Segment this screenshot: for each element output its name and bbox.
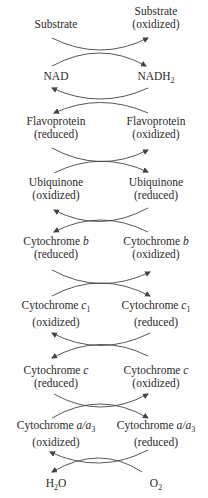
label-state: (oxidized): [104, 18, 208, 31]
label-italic: b: [183, 235, 189, 247]
arrow-cytochrome-a-oxidation: [50, 450, 148, 463]
label-text: Cytochrome c1: [104, 299, 208, 316]
label-cytochrome-a-oxidized-left: Cytochrome a/a3 (oxidized): [4, 419, 108, 449]
arrow-nad-reduction: [52, 53, 146, 66]
label-oxygen: O2: [104, 477, 208, 494]
arrow-cytochrome-b-oxidation: [52, 270, 150, 284]
label-italic: c: [183, 364, 188, 376]
label-state: (reduced): [104, 189, 208, 202]
arrow-flavoprotein-oxidation: [52, 148, 148, 162]
arrow-substrate-oxidation: [52, 38, 148, 50]
label-subscript: 2: [171, 76, 175, 85]
label-text: Substrate: [4, 18, 108, 31]
label-cytochrome-c1-oxidized-left: Cytochrome c1 (oxidized): [4, 299, 108, 329]
label-state: (oxidized): [4, 189, 108, 202]
label-text-main: Cytochrome: [117, 419, 177, 431]
label-state: (oxidized): [104, 377, 208, 390]
arrow-cytochrome-c-oxidation: [54, 394, 148, 407]
label-text-main: Cytochrome: [124, 364, 184, 376]
label-nad: NAD: [4, 70, 108, 83]
label-subscript: 3: [91, 425, 95, 434]
arrow-cytochrome-c1-reduction: [52, 283, 150, 296]
label-ubiquinone-reduced-right: Ubiquinone (reduced): [104, 176, 208, 202]
label-text: Cytochrome a/a3: [104, 419, 208, 436]
label-text: O2: [104, 477, 208, 494]
label-subscript: 1: [186, 305, 190, 314]
label-text-main: Cytochrome: [22, 299, 82, 311]
label-text: Ubiquinone: [4, 176, 108, 189]
label-flavoprotein-oxidized-right: Flavoprotein (oxidized): [104, 115, 208, 141]
label-text-main: O: [150, 477, 158, 489]
label-substrate: Substrate: [4, 18, 108, 31]
label-text-main: Cytochrome: [23, 235, 83, 247]
label-cytochrome-b-oxidized-right: Cytochrome b (oxidized): [104, 235, 208, 261]
label-state: (oxidized): [104, 248, 208, 261]
label-state: (oxidized): [4, 436, 108, 449]
label-text: Ubiquinone: [104, 176, 208, 189]
label-italic: a/a: [177, 419, 192, 431]
arrow-nadh2-oxidation: [52, 88, 148, 99]
label-state: (reduced): [104, 436, 208, 449]
label-text-main: NADH: [137, 70, 170, 82]
label-text-main: Cytochrome: [122, 299, 182, 311]
label-italic: a/a: [77, 419, 92, 431]
label-text: NADH2: [104, 70, 208, 87]
label-text-main: Cytochrome: [24, 364, 84, 376]
label-state: (oxidized): [4, 316, 108, 329]
label-state: (reduced): [4, 377, 108, 390]
label-text: Cytochrome b: [4, 235, 108, 248]
label-flavoprotein-reduced-left: Flavoprotein (reduced): [4, 115, 108, 141]
arrow-oxygen-reduction: [52, 458, 142, 472]
label-ubiquinone-oxidized-left: Ubiquinone (oxidized): [4, 176, 108, 202]
arrow-flavoprotein-reduction: [54, 103, 148, 114]
label-text: Flavoprotein: [4, 115, 108, 128]
label-text: Cytochrome c: [4, 364, 108, 377]
arrow-ubiquinone-reduction: [54, 161, 148, 173]
label-text-main: H: [46, 477, 54, 489]
label-subscript: 1: [86, 305, 90, 314]
label-nadh2: NADH2: [104, 70, 208, 87]
label-substrate-oxidized: Substrate (oxidized): [104, 5, 208, 31]
label-text: Cytochrome b: [104, 235, 208, 248]
label-state: (oxidized): [104, 128, 208, 141]
label-text: Cytochrome c1: [4, 299, 108, 316]
arrow-cytochrome-c-reduction: [52, 344, 148, 358]
arrow-cytochrome-c1-oxidation: [52, 333, 150, 346]
label-cytochrome-b-reduced-left: Cytochrome b (reduced): [4, 235, 108, 261]
electron-transport-diagram: Substrate Substrate (oxidized) NAD NADH2…: [0, 0, 208, 498]
label-state: (reduced): [104, 316, 208, 329]
label-text: NAD: [4, 70, 108, 83]
label-text: Cytochrome c: [104, 364, 208, 377]
label-text: Substrate: [104, 5, 208, 18]
arrow-ubiquinone-oxidation: [54, 208, 148, 222]
label-text: Cytochrome a/a3: [4, 419, 108, 436]
arrow-cytochrome-a-reduction: [52, 404, 148, 418]
label-state: (reduced): [4, 248, 108, 261]
label-water: H2O: [4, 477, 108, 494]
label-subscript: 3: [191, 425, 195, 434]
label-cytochrome-c1-reduced-right: Cytochrome c1 (reduced): [104, 299, 208, 329]
label-text: H2O: [4, 477, 108, 494]
label-italic: c: [83, 364, 88, 376]
label-cytochrome-c-reduced-left: Cytochrome c (reduced): [4, 364, 108, 390]
label-subscript: 2: [158, 483, 162, 492]
label-text-main: Cytochrome: [123, 235, 183, 247]
label-cytochrome-a-reduced-right: Cytochrome a/a3 (reduced): [104, 419, 208, 449]
label-cytochrome-c-oxidized-right: Cytochrome c (oxidized): [104, 364, 208, 390]
label-text-tail: O: [58, 477, 66, 489]
label-state: (reduced): [4, 128, 108, 141]
label-text: Flavoprotein: [104, 115, 208, 128]
label-text-main: Cytochrome: [17, 419, 77, 431]
label-italic: b: [83, 235, 89, 247]
